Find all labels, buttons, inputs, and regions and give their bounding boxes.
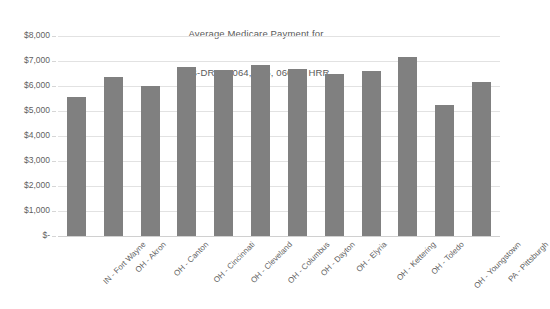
y-axis-tick-label: $- <box>0 231 50 240</box>
bar[interactable] <box>288 69 307 237</box>
y-axis-tick-label: $6,000 <box>0 81 50 90</box>
plot-area <box>58 36 500 236</box>
y-axis-tick-label: $7,000 <box>0 56 50 65</box>
x-axis-tick-label: OH - Elyria <box>355 240 389 274</box>
bar[interactable] <box>104 77 123 236</box>
y-axis-tick-label: $5,000 <box>0 106 50 115</box>
bar[interactable] <box>214 70 233 236</box>
y-axis-tick-mark <box>52 211 56 212</box>
bar[interactable] <box>325 74 344 237</box>
y-axis-tick-mark <box>52 36 56 37</box>
y-axis-tick-label: $1,000 <box>0 206 50 215</box>
y-axis-tick-mark <box>52 161 56 162</box>
bar[interactable] <box>251 65 270 236</box>
y-axis-tick-label: $3,000 <box>0 156 50 165</box>
y-axis-tick-label: $4,000 <box>0 131 50 140</box>
y-axis-tick-mark <box>52 111 56 112</box>
y-axis-tick-label: $2,000 <box>0 181 50 190</box>
bar[interactable] <box>67 97 86 236</box>
y-axis-tick-mark <box>52 186 56 187</box>
y-axis-tick-mark <box>52 86 56 87</box>
bar[interactable] <box>398 57 417 236</box>
y-axis-tick-mark <box>52 236 56 237</box>
footer-cut-text <box>0 302 512 309</box>
bar[interactable] <box>472 82 491 236</box>
bar[interactable] <box>177 67 196 236</box>
bar[interactable] <box>435 105 454 236</box>
x-axis-tick-label: OH - Youngstown <box>472 240 522 290</box>
y-axis-tick-label: $8,000 <box>0 31 50 40</box>
y-axis-tick-mark <box>52 136 56 137</box>
bar[interactable] <box>362 71 381 236</box>
x-axis-tick-label: OH - Kettering <box>395 240 438 283</box>
bar[interactable] <box>141 86 160 236</box>
gridline <box>58 236 500 237</box>
y-axis-tick-mark <box>52 61 56 62</box>
x-axis-tick-label: OH - Canton <box>172 240 210 278</box>
